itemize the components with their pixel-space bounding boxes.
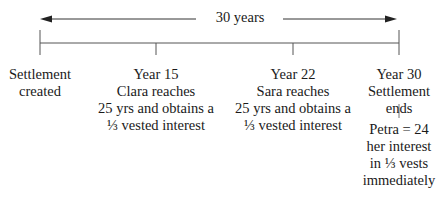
event-line: Settlement: [0, 66, 80, 83]
petra-note: Petra = 24 her interest in ⅓ vests immed…: [359, 121, 438, 189]
event-line: Year 15: [96, 66, 216, 83]
note-line: immediately: [359, 172, 438, 189]
event-line: Clara reaches: [96, 83, 216, 100]
event-line: Sara reaches: [233, 83, 353, 100]
event-line: 25 yrs and obtains a: [233, 100, 353, 117]
event-year-15: Year 15 Clara reaches 25 yrs and obtains…: [96, 66, 216, 134]
event-line: 25 yrs and obtains a: [96, 100, 216, 117]
event-line: created: [0, 83, 80, 100]
event-line: ⅓ vested interest: [233, 117, 353, 134]
event-line: ⅓ vested interest: [96, 117, 216, 134]
event-settlement-created: Settlement created: [0, 66, 80, 100]
event-line: Year 30: [359, 66, 438, 83]
event-line: Year 22: [233, 66, 353, 83]
event-year-30: Year 30 Settlement ends: [359, 66, 438, 117]
note-line: her interest: [359, 138, 438, 155]
event-line: ends: [359, 100, 438, 117]
span-label: 30 years: [200, 9, 280, 26]
note-line: in ⅓ vests: [359, 155, 438, 172]
event-year-22: Year 22 Sara reaches 25 yrs and obtains …: [233, 66, 353, 134]
note-line: Petra = 24: [359, 121, 438, 138]
event-line: Settlement: [359, 83, 438, 100]
